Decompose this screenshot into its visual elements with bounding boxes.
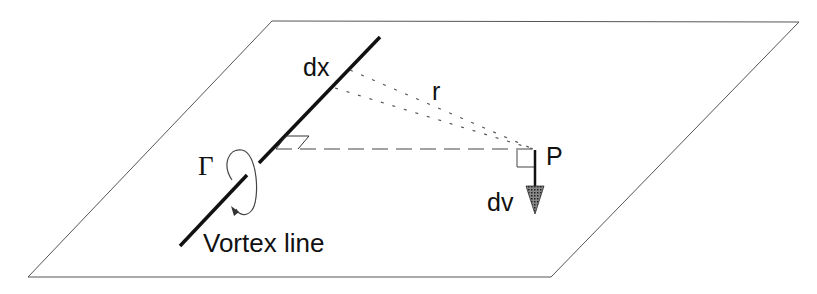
label-p: P [546, 142, 563, 170]
right-angle-marker-p [517, 150, 534, 167]
label-dx: dx [303, 53, 330, 81]
label-gamma: Γ [198, 151, 214, 181]
label-vortex-line: Vortex line [203, 228, 324, 258]
label-r: r [432, 77, 440, 105]
plane-parallelogram [28, 21, 799, 277]
distance-dotted-line-1 [350, 70, 533, 149]
label-dv: dv [487, 188, 514, 216]
vortex-diagram: dx r P dv Γ Vortex line [0, 0, 817, 294]
velocity-arrowhead-icon [526, 186, 544, 214]
